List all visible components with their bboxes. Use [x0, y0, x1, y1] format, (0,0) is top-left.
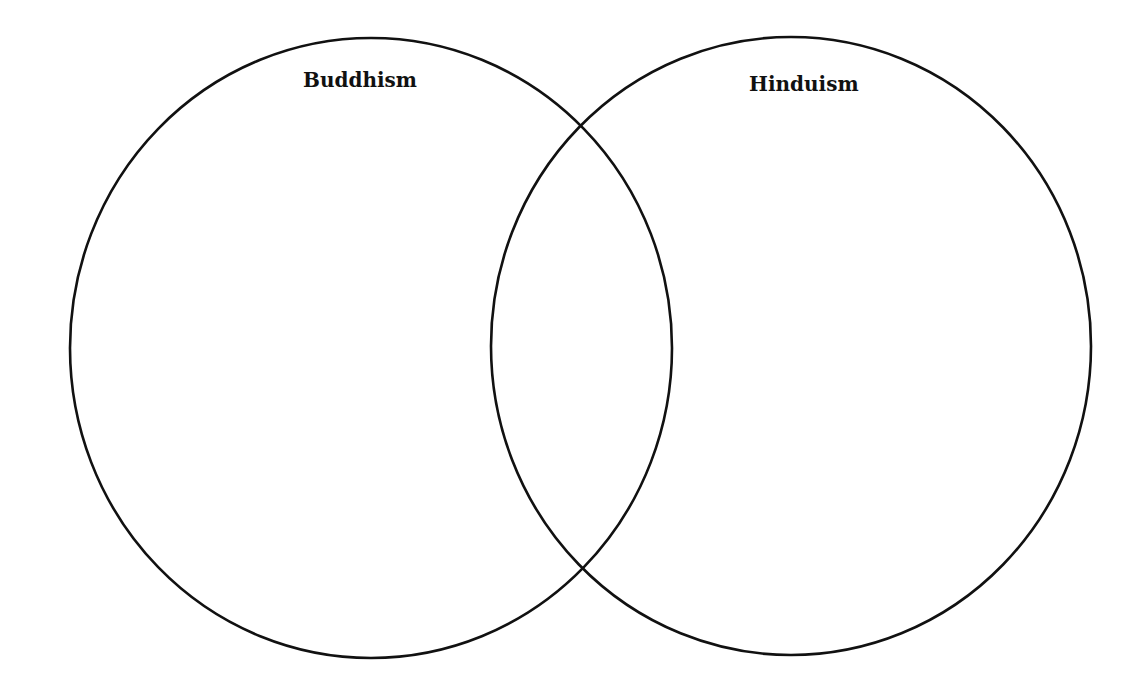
buddhism-circle: [70, 38, 672, 658]
hinduism-label: Hinduism: [749, 72, 859, 96]
hinduism-circle: [491, 37, 1091, 655]
venn-diagram: [0, 0, 1146, 689]
buddhism-label: Buddhism: [303, 68, 417, 92]
